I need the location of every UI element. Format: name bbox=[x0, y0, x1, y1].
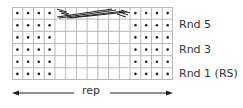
purl-dot-icon bbox=[134, 73, 137, 76]
purl-dot-icon bbox=[134, 36, 137, 39]
purl-dot-icon bbox=[134, 12, 137, 15]
purl-dot-icon bbox=[48, 24, 51, 27]
purl-dot-icon bbox=[145, 60, 148, 63]
row-label: Rnd 5 bbox=[179, 19, 211, 31]
repeat-label: rep bbox=[82, 85, 100, 97]
purl-dot-icon bbox=[16, 36, 19, 39]
purl-dot-icon bbox=[38, 73, 41, 76]
repeat-indicator: rep bbox=[12, 85, 173, 99]
purl-dot-icon bbox=[48, 60, 51, 63]
purl-dot-icon bbox=[27, 48, 30, 51]
purl-dot-icon bbox=[156, 24, 159, 27]
purl-dot-icon bbox=[38, 12, 41, 15]
chart-grid bbox=[12, 7, 173, 80]
purl-dot-icon bbox=[16, 24, 19, 27]
purl-dot-icon bbox=[166, 73, 169, 76]
purl-dot-icon bbox=[27, 36, 30, 39]
knitting-chart bbox=[12, 7, 173, 80]
purl-dot-icon bbox=[145, 12, 148, 15]
purl-dot-icon bbox=[156, 60, 159, 63]
purl-dot-icon bbox=[134, 60, 137, 63]
purl-dot-icon bbox=[27, 73, 30, 76]
purl-dot-icon bbox=[38, 60, 41, 63]
purl-dot-icon bbox=[166, 60, 169, 63]
purl-dot-icon bbox=[166, 24, 169, 27]
purl-dot-icon bbox=[16, 73, 19, 76]
purl-dot-icon bbox=[38, 36, 41, 39]
purl-dot-icon bbox=[166, 12, 169, 15]
purl-dot-icon bbox=[156, 36, 159, 39]
purl-dot-icon bbox=[145, 48, 148, 51]
purl-dot-icon bbox=[145, 73, 148, 76]
purl-dot-icon bbox=[48, 12, 51, 15]
purl-dot-icon bbox=[166, 48, 169, 51]
purl-dot-icon bbox=[27, 24, 30, 27]
purl-dot-icon bbox=[48, 48, 51, 51]
purl-dot-icon bbox=[166, 36, 169, 39]
row-label: Rnd 3 bbox=[179, 44, 211, 56]
purl-dot-icon bbox=[16, 48, 19, 51]
purl-dot-icon bbox=[38, 24, 41, 27]
purl-dot-icon bbox=[48, 73, 51, 76]
purl-dot-icon bbox=[156, 48, 159, 51]
purl-dot-icon bbox=[134, 48, 137, 51]
purl-dot-icon bbox=[145, 36, 148, 39]
purl-dot-icon bbox=[48, 36, 51, 39]
purl-dot-icon bbox=[145, 24, 148, 27]
purl-dot-icon bbox=[27, 60, 30, 63]
purl-dot-icon bbox=[27, 12, 30, 15]
purl-dot-icon bbox=[16, 60, 19, 63]
purl-dot-icon bbox=[156, 12, 159, 15]
purl-dot-icon bbox=[134, 24, 137, 27]
purl-dot-icon bbox=[156, 73, 159, 76]
row-label: Rnd 1 (RS) bbox=[179, 68, 238, 80]
purl-dot-icon bbox=[16, 12, 19, 15]
purl-dot-icon bbox=[38, 48, 41, 51]
